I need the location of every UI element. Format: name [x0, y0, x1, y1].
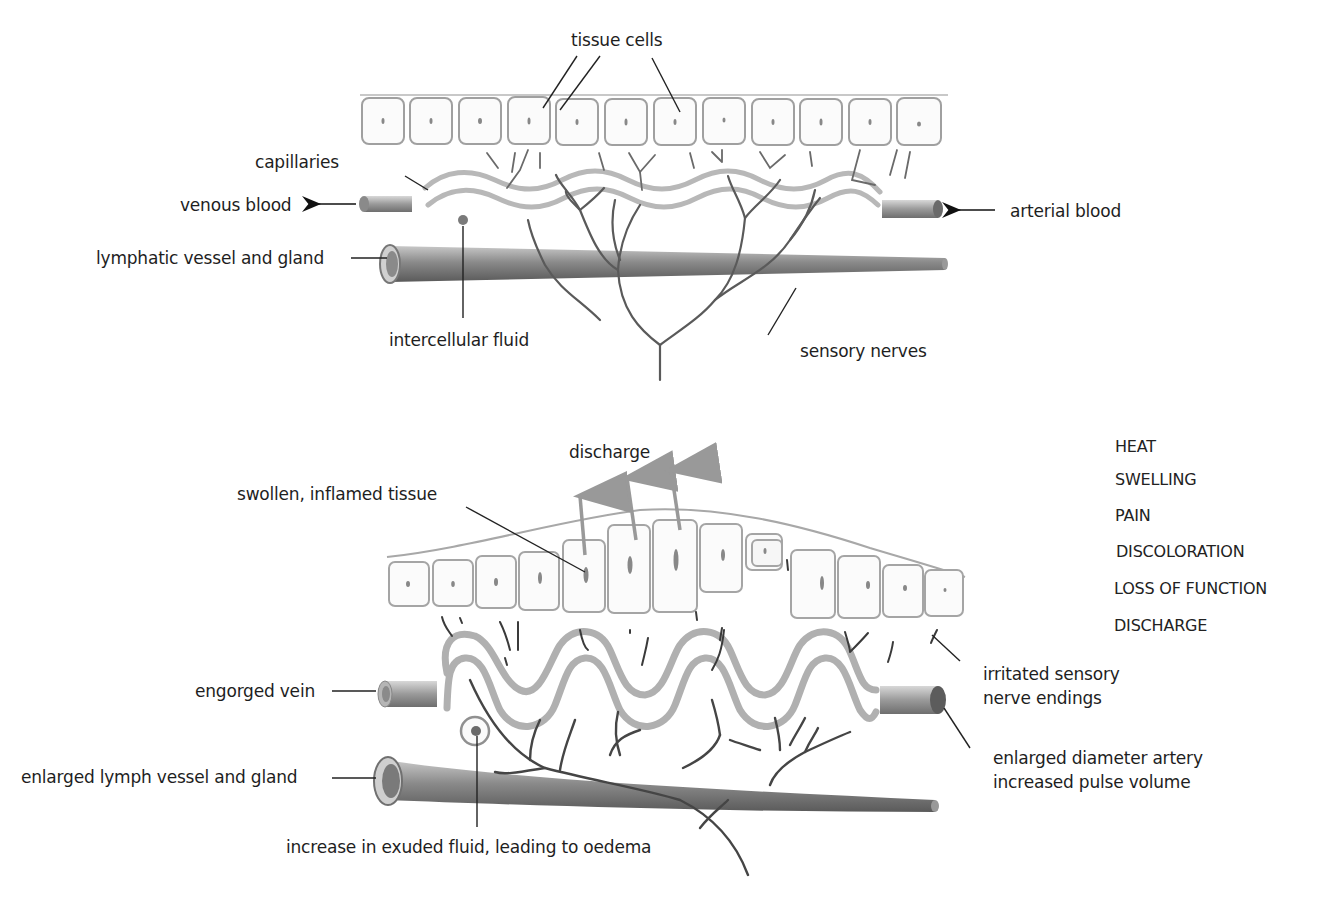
label-irritated-nerves-line2: nerve endings	[983, 688, 1102, 708]
label-tissue-cells: tissue cells	[571, 30, 662, 50]
sign-discharge: DISCHARGE	[1114, 616, 1207, 635]
arterial-vessel	[882, 200, 943, 218]
label-exuded-fluid: increase in exuded fluid, leading to oed…	[286, 837, 651, 857]
sign-pain: PAIN	[1115, 506, 1150, 525]
engorged-vein	[378, 681, 437, 707]
exuded-fluid	[461, 717, 489, 745]
tissue-cells-top	[362, 97, 941, 145]
inflammation-diagram: tissue cells capillaries venous blood ar…	[0, 0, 1321, 908]
sign-loss-of-function: LOSS OF FUNCTION	[1114, 579, 1267, 598]
label-enlarged-artery-line1: enlarged diameter artery	[993, 748, 1203, 768]
sign-swelling: SWELLING	[1115, 470, 1196, 489]
enlarged-lymph-vessel	[374, 757, 939, 812]
label-enlarged-lymph: enlarged lymph vessel and gland	[21, 767, 297, 787]
label-irritated-nerves-line1: irritated sensory	[983, 664, 1120, 684]
label-arterial-blood: arterial blood	[1010, 201, 1121, 221]
label-engorged-vein: engorged vein	[195, 681, 315, 701]
enlarged-artery	[880, 686, 946, 714]
lymphatic-vessel	[380, 245, 948, 283]
label-lymphatic-vessel: lymphatic vessel and gland	[96, 248, 324, 268]
label-sensory-nerves: sensory nerves	[800, 341, 927, 361]
sign-heat: HEAT	[1115, 437, 1156, 456]
label-intercellular-fluid: intercellular fluid	[389, 330, 529, 350]
label-swollen-tissue: swollen, inflamed tissue	[237, 484, 437, 504]
label-enlarged-artery-line2: increased pulse volume	[993, 772, 1190, 792]
label-venous-blood: venous blood	[180, 195, 291, 215]
label-capillaries: capillaries	[255, 152, 339, 172]
label-discharge: discharge	[569, 442, 650, 462]
bottom-panel	[332, 470, 970, 875]
intercellular-fluid-dot	[458, 215, 468, 225]
venous-vessel	[359, 196, 412, 212]
sign-discoloration: DISCOLORATION	[1116, 542, 1245, 561]
